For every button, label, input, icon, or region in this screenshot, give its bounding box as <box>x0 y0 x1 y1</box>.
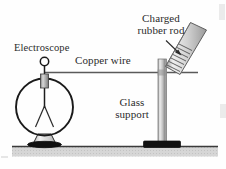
electroscope-leaves <box>36 106 54 127</box>
physics-diagram-electroscope: Electroscope Copper wire Charged rubber … <box>0 0 226 169</box>
glass-support-base <box>144 141 181 148</box>
glass-support-wire-joint <box>158 70 168 76</box>
label-copper-wire: Copper wire <box>75 55 131 67</box>
electroscope <box>16 57 73 147</box>
label-glass-support-line2: support <box>106 109 158 121</box>
diagram-canvas <box>0 0 226 169</box>
electroscope-collar <box>41 74 49 88</box>
label-charged-rod-line2: rubber rod <box>131 25 191 37</box>
label-electroscope: Electroscope <box>14 42 69 53</box>
electroscope-knob <box>40 57 48 65</box>
label-glass-support: Glass support <box>106 97 158 121</box>
label-charged-rubber-rod: Charged rubber rod <box>131 13 191 37</box>
